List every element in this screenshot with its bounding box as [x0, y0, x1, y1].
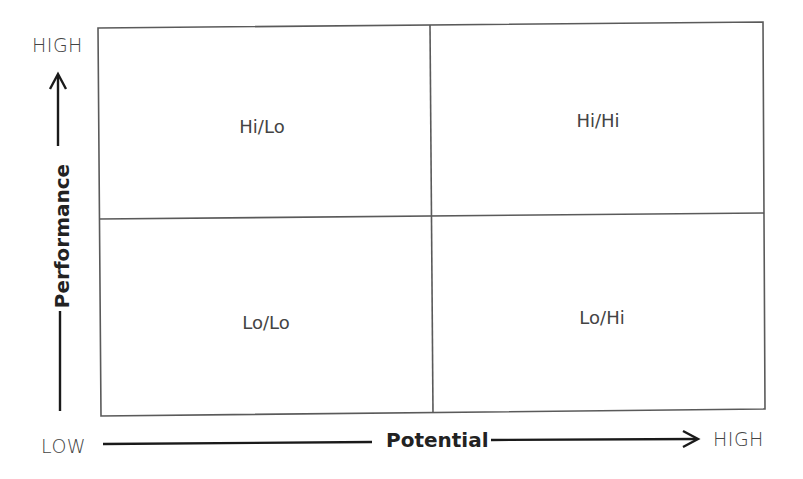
quadrant-bottom-right-label: Lo/Hi — [579, 309, 624, 327]
y-axis-high-label: HIGH — [32, 36, 83, 55]
quadrant-top-left-label: Hi/Lo — [239, 118, 284, 136]
x-axis-title: Potential — [386, 430, 489, 450]
quadrant-top-right-label: Hi/Hi — [576, 112, 619, 130]
performance-potential-matrix: HIGH Performance LOW Potential HIGH Hi/L… — [0, 0, 803, 479]
x-axis-left-line — [103, 442, 372, 444]
vertical-divider — [430, 25, 433, 413]
matrix-lines — [0, 0, 803, 479]
x-axis-low-label: LOW — [41, 437, 86, 456]
y-axis-up-arrow-icon — [50, 74, 66, 146]
x-axis-right-arrow-icon — [491, 431, 698, 447]
y-axis-title: Performance — [52, 164, 72, 308]
x-axis-high-label: HIGH — [713, 430, 764, 449]
quadrant-bottom-left-label: Lo/Lo — [242, 314, 290, 332]
